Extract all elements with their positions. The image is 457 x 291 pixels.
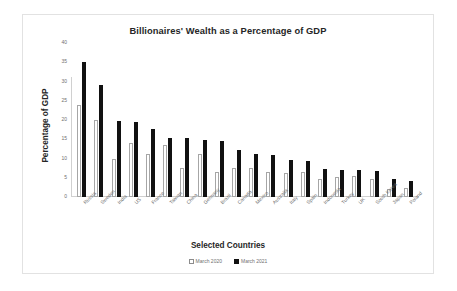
x-label-slot: India	[107, 199, 124, 241]
bar-group[interactable]	[262, 43, 279, 197]
bar[interactable]	[318, 179, 322, 197]
legend-entry[interactable]: March 2021	[234, 258, 267, 264]
y-tick-label: 35	[61, 58, 67, 64]
bar[interactable]	[237, 150, 241, 197]
bar[interactable]	[271, 155, 275, 197]
y-tick-label: 20	[61, 116, 67, 122]
x-label-slot: Taiwan	[159, 199, 176, 241]
bar[interactable]	[375, 171, 379, 197]
chart-title: Billionaires' Wealth as a Percentage of …	[23, 26, 433, 36]
y-axis-title: Percentage of GDP	[41, 66, 50, 186]
bar[interactable]	[168, 138, 172, 197]
x-label-slot: Germany	[193, 199, 210, 241]
bar[interactable]	[134, 122, 138, 197]
y-tick-label: 5	[64, 174, 67, 180]
bar[interactable]	[82, 62, 86, 197]
x-label-slot: Spain	[297, 199, 314, 241]
bar[interactable]	[151, 129, 155, 197]
bar[interactable]	[117, 121, 121, 197]
bar-group[interactable]	[365, 43, 382, 197]
bar[interactable]	[323, 169, 327, 197]
x-axis-title: Selected Countries	[23, 241, 433, 250]
x-axis-labels: RussiaSwedenIndiaUSFranceTaiwanChinaGerm…	[71, 199, 419, 241]
bar[interactable]	[99, 85, 103, 197]
y-tick-label: 0	[64, 193, 67, 199]
x-label-slot: US	[125, 199, 142, 241]
bar-group[interactable]	[159, 43, 176, 197]
x-label-slot: Canada	[228, 199, 245, 241]
bar[interactable]	[370, 179, 374, 197]
y-tick-label: 30	[61, 78, 67, 84]
bar[interactable]	[306, 161, 310, 197]
bar-group[interactable]	[400, 43, 417, 197]
bar-group[interactable]	[245, 43, 262, 197]
bar-group[interactable]	[125, 43, 142, 197]
chart-legend: March 2020March 2021	[23, 258, 433, 264]
legend-entry[interactable]: March 2020	[189, 258, 222, 264]
y-tick-label: 15	[61, 135, 67, 141]
bar-group[interactable]	[228, 43, 245, 197]
bar-group[interactable]	[90, 43, 107, 197]
bar[interactable]	[163, 145, 167, 197]
x-label-slot: Turkey	[331, 199, 348, 241]
bar-group[interactable]	[211, 43, 228, 197]
bar[interactable]	[289, 160, 293, 197]
x-label-slot: Russia	[73, 199, 90, 241]
x-label-slot: Italy	[279, 199, 296, 241]
bar-group[interactable]	[383, 43, 400, 197]
chart-card: Billionaires' Wealth as a Percentage of …	[22, 14, 434, 274]
plot-area: 4035302520151050	[71, 43, 419, 197]
bar-group[interactable]	[297, 43, 314, 197]
bar[interactable]	[146, 154, 150, 197]
bar-group[interactable]	[73, 43, 90, 197]
bar[interactable]	[198, 154, 202, 197]
bar[interactable]	[129, 143, 133, 197]
legend-swatch	[234, 259, 239, 264]
bar-group[interactable]	[176, 43, 193, 197]
bar[interactable]	[357, 170, 361, 197]
bar-group[interactable]	[331, 43, 348, 197]
bar-group[interactable]	[142, 43, 159, 197]
x-label-slot: Sweden	[90, 199, 107, 241]
legend-label: March 2020	[196, 258, 222, 264]
bar-group[interactable]	[107, 43, 124, 197]
bar-group[interactable]	[348, 43, 365, 197]
x-label-slot: China	[176, 199, 193, 241]
x-label-slot: France	[142, 199, 159, 241]
x-label-slot: UK	[348, 199, 365, 241]
bar[interactable]	[254, 154, 258, 197]
bar[interactable]	[409, 181, 413, 197]
y-tick-label: 25	[61, 97, 67, 103]
x-label-slot: Australia	[262, 199, 279, 241]
x-label-slot: Mexico	[245, 199, 262, 241]
x-label-slot: South Korea	[365, 199, 382, 241]
legend-label: March 2021	[241, 258, 267, 264]
bar-group[interactable]	[314, 43, 331, 197]
x-label-slot: Poland	[400, 199, 417, 241]
bar-group[interactable]	[193, 43, 210, 197]
bar-group[interactable]	[279, 43, 296, 197]
x-label-slot: Japan	[383, 199, 400, 241]
bar[interactable]	[220, 141, 224, 197]
bar[interactable]	[232, 168, 236, 197]
legend-swatch	[189, 259, 194, 264]
bar[interactable]	[77, 105, 81, 197]
bar[interactable]	[340, 170, 344, 197]
y-tick-label: 10	[61, 155, 67, 161]
x-label-slot: Brazil	[211, 199, 228, 241]
bar[interactable]	[203, 140, 207, 197]
bar[interactable]	[185, 138, 189, 197]
y-tick-label: 40	[61, 39, 67, 45]
bars-layer	[71, 43, 419, 197]
bar[interactable]	[94, 120, 98, 197]
bar[interactable]	[301, 172, 305, 197]
x-label-slot: Indonesia	[314, 199, 331, 241]
